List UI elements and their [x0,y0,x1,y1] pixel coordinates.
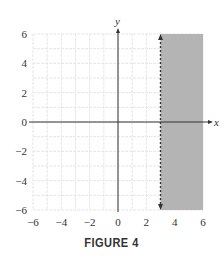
y-axis-label: y [114,15,120,27]
y-tick-label: 4 [22,57,28,69]
y-tick-label: 0 [22,116,28,128]
x-tick-label: 0 [115,216,121,228]
figure-caption: FIGURE 4 [9,236,214,250]
x-tick-labels: −6−4−20246 [27,216,206,228]
y-tick-label: 6 [22,28,28,40]
x-tick-label: −2 [84,216,96,228]
y-tick-label: −2 [15,145,27,157]
y-tick-label: −4 [15,175,27,187]
x-tick-label: 4 [172,216,178,228]
x-tick-label: −4 [55,216,67,228]
x-tick-label: −6 [27,216,39,228]
inequality-graph: −6−4−20246 −6−4−20246 x y [0,0,223,258]
y-tick-label: 2 [22,87,28,99]
y-tick-labels: −6−4−20246 [15,28,27,216]
x-tick-label: 6 [200,216,206,228]
x-axis-label: x [213,116,219,128]
x-tick-label: 2 [144,216,150,228]
y-tick-label: −6 [15,204,27,216]
